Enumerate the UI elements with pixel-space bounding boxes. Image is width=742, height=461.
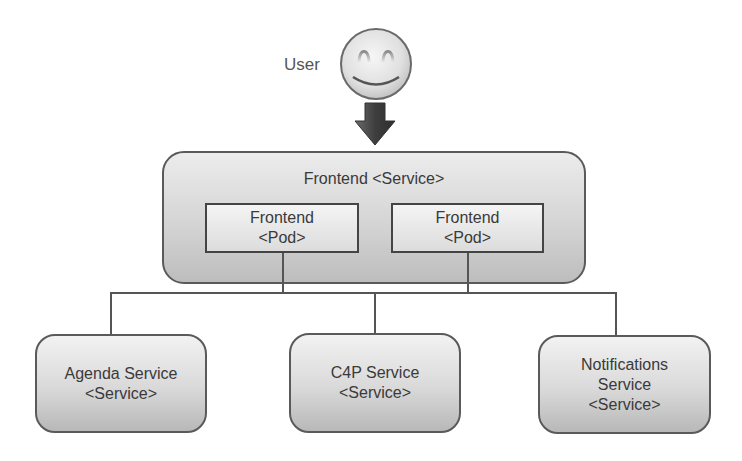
connector-pod2 xyxy=(467,253,469,294)
service-type: <Service> xyxy=(339,383,411,403)
connector-bus xyxy=(110,292,617,294)
agenda-service-box: Agenda Service <Service> xyxy=(35,334,207,433)
notifications-service-box: Notifications Service <Service> xyxy=(538,335,711,434)
service-name: Agenda Service xyxy=(65,364,178,384)
pod-name: Frontend xyxy=(250,208,314,228)
frontend-pod-2: Frontend <Pod> xyxy=(391,203,544,253)
connector-agenda xyxy=(110,292,112,335)
c4p-service-box: C4P Service <Service> xyxy=(289,333,461,433)
user-label: User xyxy=(284,55,320,75)
pod-name: Frontend xyxy=(435,208,499,228)
service-name-cont: Service xyxy=(598,375,651,395)
service-type: <Service> xyxy=(85,384,157,404)
pod-type: <Pod> xyxy=(444,228,491,248)
connector-notifications xyxy=(615,292,617,336)
service-name: C4P Service xyxy=(331,363,420,383)
frontend-service-title: Frontend <Service> xyxy=(164,170,584,188)
smiley-face-icon xyxy=(338,26,414,102)
connector-c4p xyxy=(374,292,376,334)
arrow-down-icon xyxy=(354,102,396,146)
connector-pod1 xyxy=(282,253,284,294)
pod-type: <Pod> xyxy=(258,228,305,248)
service-type: <Service> xyxy=(588,395,660,415)
frontend-pod-1: Frontend <Pod> xyxy=(205,203,359,253)
service-name: Notifications xyxy=(581,355,668,375)
